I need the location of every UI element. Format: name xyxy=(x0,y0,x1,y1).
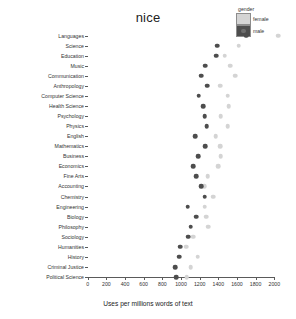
data-point-male[interactable] xyxy=(177,255,182,260)
data-point-female[interactable] xyxy=(218,144,223,149)
y-tick xyxy=(85,156,88,157)
data-point-male[interactable] xyxy=(194,214,199,219)
data-point-male[interactable] xyxy=(191,164,196,169)
data-point-male[interactable] xyxy=(186,234,191,239)
x-tick xyxy=(181,277,182,280)
y-tick-label: Sociology xyxy=(62,234,85,240)
y-tick-label: Languages xyxy=(58,33,84,39)
data-point-female[interactable] xyxy=(202,204,207,209)
data-point-female[interactable] xyxy=(191,234,196,239)
data-point-male[interactable] xyxy=(188,224,193,229)
data-point-female[interactable] xyxy=(225,94,230,99)
legend-label-male: male xyxy=(253,28,264,34)
scatter-chart: nice gender female male LanguagesScience… xyxy=(0,0,296,319)
data-point-male[interactable] xyxy=(196,94,201,99)
y-tick xyxy=(85,96,88,97)
y-tick xyxy=(85,76,88,77)
y-tick xyxy=(85,146,88,147)
x-tick xyxy=(162,277,163,280)
data-point-male[interactable] xyxy=(174,275,179,280)
x-tick-label: 0 xyxy=(86,281,89,287)
data-point-female[interactable] xyxy=(276,33,281,38)
data-point-female[interactable] xyxy=(233,73,238,78)
data-point-male[interactable] xyxy=(215,43,220,48)
data-point-female[interactable] xyxy=(218,154,223,159)
y-tick xyxy=(85,176,88,177)
x-tick xyxy=(256,277,257,280)
data-point-male[interactable] xyxy=(205,84,210,89)
y-tick xyxy=(85,66,88,67)
y-tick xyxy=(85,227,88,228)
x-tick-label: 1000 xyxy=(175,281,187,287)
x-tick-label: 800 xyxy=(158,281,167,287)
data-point-male[interactable] xyxy=(244,33,249,38)
data-point-male[interactable] xyxy=(202,194,207,199)
data-point-female[interactable] xyxy=(205,174,210,179)
data-point-male[interactable] xyxy=(203,144,208,149)
y-tick-label: Computer Science xyxy=(41,93,84,99)
y-tick-label: History xyxy=(68,254,84,260)
data-point-female[interactable] xyxy=(206,224,211,229)
y-tick xyxy=(85,217,88,218)
data-point-male[interactable] xyxy=(202,114,207,119)
data-point-female[interactable] xyxy=(228,63,233,68)
data-point-female[interactable] xyxy=(218,114,223,119)
y-tick xyxy=(85,207,88,208)
data-point-female[interactable] xyxy=(188,265,193,270)
data-point-female[interactable] xyxy=(195,255,200,260)
y-axis-labels: LanguagesScienceEducationMusicCommunicat… xyxy=(0,0,84,319)
data-point-female[interactable] xyxy=(213,134,218,139)
data-point-male[interactable] xyxy=(203,63,208,68)
y-tick xyxy=(85,166,88,167)
data-point-male[interactable] xyxy=(178,245,183,250)
data-point-male[interactable] xyxy=(199,73,204,78)
y-tick xyxy=(85,186,88,187)
data-point-female[interactable] xyxy=(225,124,230,129)
data-point-male[interactable] xyxy=(194,174,199,179)
data-point-male[interactable] xyxy=(201,104,206,109)
data-point-female[interactable] xyxy=(211,194,216,199)
data-point-female[interactable] xyxy=(237,43,242,48)
legend-label-female: female xyxy=(253,16,269,22)
data-point-female[interactable] xyxy=(184,245,189,250)
y-tick-label: Fine Arts xyxy=(64,173,84,179)
y-tick-label: Philosophy xyxy=(59,224,84,230)
data-point-male[interactable] xyxy=(173,265,178,270)
data-point-male[interactable] xyxy=(204,124,209,129)
x-tick xyxy=(200,277,201,280)
y-tick-label: English xyxy=(67,133,84,139)
x-tick xyxy=(237,277,238,280)
data-point-female[interactable] xyxy=(223,53,228,58)
y-tick-label: Business xyxy=(63,153,84,159)
legend-title: gender xyxy=(238,6,292,12)
y-tick-label: Chemistry xyxy=(61,194,84,200)
y-tick-label: Education xyxy=(61,53,84,59)
legend-item-female[interactable]: female xyxy=(236,13,292,25)
x-tick-label: 200 xyxy=(102,281,111,287)
y-tick xyxy=(85,257,88,258)
y-tick xyxy=(85,247,88,248)
y-tick-label: Psychology xyxy=(57,113,84,119)
x-tick-label: 600 xyxy=(139,281,148,287)
y-tick xyxy=(85,106,88,107)
data-point-female[interactable] xyxy=(226,104,231,109)
legend: gender female male xyxy=(236,6,292,37)
data-point-female[interactable] xyxy=(216,164,221,169)
x-tick xyxy=(218,277,219,280)
y-tick-label: Accounting xyxy=(58,183,84,189)
data-point-female[interactable] xyxy=(204,214,209,219)
data-point-male[interactable] xyxy=(199,184,204,189)
y-tick-label: Biology xyxy=(67,214,84,220)
x-tick-label: 1800 xyxy=(250,281,262,287)
data-point-male[interactable] xyxy=(193,134,198,139)
y-tick xyxy=(85,136,88,137)
x-tick-label: 1400 xyxy=(213,281,225,287)
y-tick-label: Humanities xyxy=(58,244,84,250)
data-point-male[interactable] xyxy=(214,53,219,58)
legend-swatch-female xyxy=(236,13,251,25)
data-point-male[interactable] xyxy=(185,204,190,209)
data-point-male[interactable] xyxy=(196,154,201,159)
x-tick-label: 1600 xyxy=(231,281,243,287)
data-point-female[interactable] xyxy=(184,275,189,280)
data-point-female[interactable] xyxy=(218,84,223,89)
